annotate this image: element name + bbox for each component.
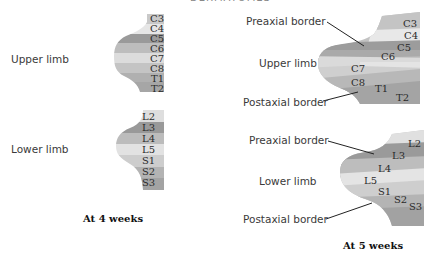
svg-text:C8: C8	[351, 77, 365, 88]
upper-postaxial-border-label: Postaxial border	[243, 96, 328, 108]
lower-preaxial-leader-line	[328, 141, 374, 154]
svg-text:L4: L4	[378, 163, 391, 174]
svg-text:S1: S1	[142, 155, 155, 166]
svg-text:C6: C6	[381, 51, 395, 62]
upper-preaxial-border-label: Preaxial border	[246, 15, 326, 27]
svg-text:L5: L5	[142, 144, 155, 155]
svg-text:S3: S3	[409, 201, 422, 212]
lower-preaxial-border-label: Preaxial border	[249, 134, 329, 146]
svg-text:S2: S2	[142, 166, 155, 177]
svg-text:L3: L3	[142, 122, 155, 133]
lower-limb-4wk-bud	[100, 110, 170, 190]
svg-text:L2: L2	[142, 111, 155, 122]
svg-text:C3: C3	[403, 18, 417, 29]
svg-text:T2: T2	[151, 83, 164, 94]
svg-text:C7: C7	[351, 63, 365, 74]
svg-text:L4: L4	[142, 133, 155, 144]
svg-text:T2: T2	[396, 92, 409, 103]
svg-text:L3: L3	[392, 150, 405, 161]
lower-limb-label-4wk: Lower limb	[11, 143, 69, 155]
svg-text:T1: T1	[375, 83, 388, 94]
upper-postaxial-leader-line	[323, 92, 358, 101]
caption-4-weeks: At 4 weeks	[83, 213, 143, 224]
lower-limb-label-5wk: Lower limb	[259, 175, 317, 187]
svg-text:C4: C4	[404, 30, 418, 41]
upper-preaxial-leader-line	[327, 22, 364, 46]
svg-text:L5: L5	[364, 175, 377, 186]
upper-limb-label-4wk: Upper limb	[11, 53, 69, 65]
svg-text:S2: S2	[394, 194, 407, 205]
svg-text:S1: S1	[378, 186, 391, 197]
lower-postaxial-border-label: Postaxial border	[243, 213, 328, 225]
upper-limb-4wk-segment-labels: C3 C4 C5 C6 C7 C8 T1 T2	[150, 13, 164, 94]
upper-limb-label-5wk: Upper limb	[259, 57, 317, 69]
svg-text:L2: L2	[408, 138, 421, 149]
lower-limb-4wk-segment-labels: L2 L3 L4 L5 S1 S2 S3	[142, 111, 155, 188]
lower-postaxial-leader-line	[326, 203, 372, 219]
svg-text:S3: S3	[142, 177, 155, 188]
caption-5-weeks: At 5 weeks	[343, 240, 403, 251]
diagram-canvas: C3 C4 C5 C6 C7 C8 T1 T2 L2 L3 L4 L5 S1 S…	[0, 0, 436, 265]
svg-text:C5: C5	[397, 42, 411, 53]
